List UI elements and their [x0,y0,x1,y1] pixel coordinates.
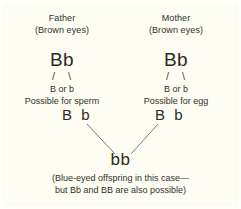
father-alleles: B or b [8,83,116,95]
offspring-caption: (Blue-eyed offspring in this case— but B… [0,172,241,196]
mother-title: Mother [122,12,230,24]
offspring-caption-line-1: (Blue-eyed offspring in this case— [0,172,241,184]
mother-gamete-pair: B b [155,106,185,123]
mother-split-marks: / \ [122,70,230,82]
inheritance-diagram: Father (Brown eyes) Bb / \ B or b Possib… [0,0,241,209]
offspring-caption-line-2: but Bb and BB are also possible) [0,184,241,196]
father-column: Father (Brown eyes) Bb / \ B or b Possib… [8,12,116,107]
father-gamete-pair: B b [62,106,92,123]
father-genotype: Bb [8,49,116,70]
father-phenotype: (Brown eyes) [8,24,116,36]
mother-column: Mother (Brown eyes) Bb / \ B or b Possib… [122,12,230,107]
mother-phenotype: (Brown eyes) [122,24,230,36]
father-title: Father [8,12,116,24]
offspring-genotype: bb [0,150,241,169]
father-split-marks: / \ [8,70,116,82]
mother-genotype: Bb [122,49,230,70]
mother-alleles: B or b [122,83,230,95]
